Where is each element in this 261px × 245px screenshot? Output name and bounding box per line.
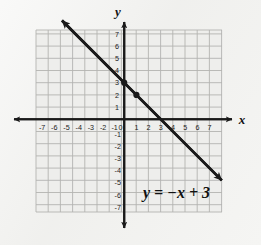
point-y-intercept	[121, 80, 127, 86]
y-tick-5: 5	[115, 54, 119, 63]
equation-annotation: y = −x + 3	[141, 184, 210, 202]
x-tick-neg3: -3	[88, 123, 94, 132]
y-tick-1: 1	[115, 103, 119, 112]
x-tick-1: 1	[134, 123, 138, 132]
y-tick-neg3: -3	[115, 154, 121, 163]
x-tick-neg5: -5	[63, 123, 69, 132]
point-second	[133, 92, 139, 98]
y-tick-neg4: -4	[115, 166, 121, 175]
x-axis-label: x	[238, 112, 246, 127]
x-tick-neg4: -4	[75, 123, 81, 132]
x-tick-5: 5	[183, 123, 187, 132]
graph-screenshot: y x -7 -6 -5 -4 -3 -2 -1 0 1 2 3 4 5 6 7…	[0, 0, 261, 245]
y-tick-neg5: -5	[115, 178, 121, 187]
y-tick-labels-negative: -1 -2 -3 -4 -5 -6 -7	[115, 130, 121, 212]
y-tick-3: 3	[115, 78, 119, 87]
y-tick-neg6: -6	[115, 191, 121, 200]
y-tick-6: 6	[115, 42, 119, 51]
x-tick-7: 7	[208, 123, 212, 132]
x-tick-neg2: -2	[100, 123, 106, 132]
y-tick-neg2: -2	[115, 142, 121, 151]
x-tick-neg6: -6	[51, 123, 57, 132]
x-tick-3: 3	[159, 123, 163, 132]
x-tick-neg7: -7	[39, 123, 45, 132]
y-tick-neg7: -7	[115, 203, 121, 212]
y-tick-2: 2	[115, 91, 119, 100]
x-tick-labels-negative: -7 -6 -5 -4 -3 -2 -1	[39, 123, 118, 132]
x-tick-6: 6	[195, 123, 199, 132]
coordinate-plane-figure: y x -7 -6 -5 -4 -3 -2 -1 0 1 2 3 4 5 6 7…	[0, 0, 261, 245]
x-tick-2: 2	[147, 123, 151, 132]
x-tick-4: 4	[171, 123, 175, 132]
y-tick-4: 4	[115, 66, 119, 75]
y-tick-neg1: -1	[115, 130, 121, 139]
y-tick-7: 7	[115, 30, 119, 39]
y-tick-labels-positive: 1 2 3 4 5 6 7	[115, 30, 119, 112]
y-axis-label: y	[113, 4, 121, 19]
